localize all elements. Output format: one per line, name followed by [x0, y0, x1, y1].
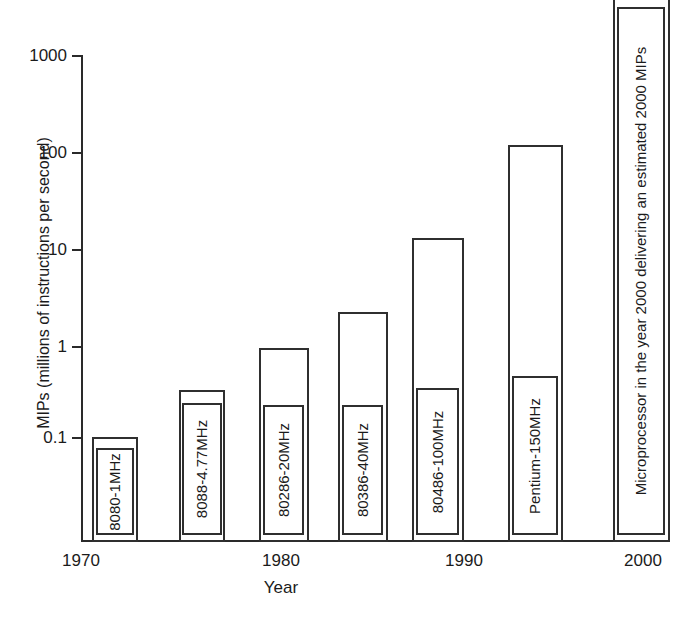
bar-label-pentium: Pentium-150MHz	[527, 398, 543, 514]
x-tick-label-1980: 1980	[251, 551, 311, 570]
y-tick-label-1-wrap: 1	[0, 338, 67, 355]
bar-label-80386: 80386-40MHz	[355, 423, 371, 517]
y-tick-label-1000-wrap: 1000	[0, 47, 67, 64]
y-tick-label-0-1-wrap: 0.1	[0, 429, 67, 446]
x-tick-label-1970: 1970	[51, 551, 111, 570]
bar-label-box-8088: 8088-4.77MHz	[182, 403, 222, 535]
y-tick-mark-10	[72, 249, 82, 251]
bar-label-box-pentium: Pentium-150MHz	[512, 376, 558, 535]
bar-label-box-year-2000-microprocessor: Microprocessor in the year 2000 deliveri…	[617, 7, 665, 535]
bar-label-8080: 8080-1MHz	[107, 453, 123, 531]
bar-label-80286: 80286-20MHz	[276, 423, 292, 517]
y-tick-mark-0-1	[72, 437, 82, 439]
bar-label-box-80486: 80486-100MHz	[416, 388, 459, 535]
chart-figure: 1000 100 10 1 0.1 MIPs (millions of inst…	[0, 0, 679, 622]
x-tick-label-1990: 1990	[434, 551, 494, 570]
x-tick-label-2000: 2000	[613, 551, 673, 570]
y-tick-mark-1	[72, 346, 82, 348]
y-tick-label-100-wrap: 100	[0, 144, 67, 161]
bar-label-year-2000-microprocessor: Microprocessor in the year 2000 deliveri…	[633, 47, 649, 496]
y-axis-line	[81, 55, 83, 542]
y-axis-title: MIPs (millions of instructions per secon…	[35, 123, 53, 443]
bar-label-box-8080: 8080-1MHz	[96, 448, 134, 535]
y-tick-mark-100	[72, 152, 82, 154]
bar-label-box-80286: 80286-20MHz	[263, 405, 304, 535]
y-tick-label-10-wrap: 10	[0, 241, 67, 258]
bar-label-box-80386: 80386-40MHz	[342, 405, 383, 535]
y-tick-mark-1000	[72, 55, 82, 57]
y-tick-label-1000: 1000	[29, 47, 67, 64]
y-tick-label-1: 1	[58, 338, 67, 355]
bar-label-8088: 8088-4.77MHz	[194, 420, 210, 518]
bar-label-80486: 80486-100MHz	[430, 410, 446, 513]
x-axis-title: Year	[81, 578, 481, 597]
